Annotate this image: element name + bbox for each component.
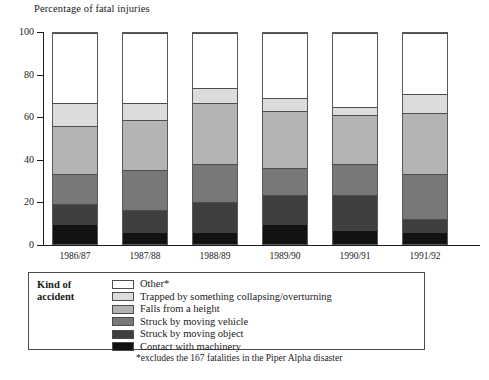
bar-group: 1991/92 [402,0,448,262]
legend-swatch [112,317,134,326]
bar-segment[interactable] [53,204,97,225]
bar-segment[interactable] [123,233,167,244]
y-axis-line [43,32,44,246]
bar-segment[interactable] [333,33,377,107]
bar-segment[interactable] [403,174,447,218]
bar-segment[interactable] [263,225,307,244]
bar-segment[interactable] [123,170,167,210]
legend-item-label: Struck by moving vehicle [140,316,248,328]
y-axis-tick-label: 100 [0,27,34,37]
legend-item-label: Trapped by something collapsing/overturn… [140,291,332,303]
bar-segment[interactable] [263,33,307,98]
bar-segment[interactable] [263,195,307,225]
bar-segment[interactable] [53,225,97,244]
legend-swatch [112,292,134,301]
legend-swatch [112,342,134,351]
y-axis-tick [37,32,44,33]
bar-group: 1986/87 [52,0,98,262]
legend-item-label: Struck by moving object [140,328,244,340]
y-axis-tick-label: 0 [0,240,34,250]
bar-segment[interactable] [193,103,237,164]
bar-segment[interactable] [193,33,237,88]
chart-footnote: *excludes the 167 fatalities in the Pipe… [136,353,342,364]
bar-segment[interactable] [193,88,237,103]
bar-segment[interactable] [193,202,237,234]
bar-segment[interactable] [333,164,377,196]
bar-segment[interactable] [403,233,447,244]
y-axis-tick-label: 80 [0,70,34,80]
y-axis-tick [37,117,44,118]
legend-swatch [112,330,134,339]
legend-swatch [112,305,134,314]
y-axis-tick-label: 40 [0,155,34,165]
bar-segment[interactable] [193,233,237,244]
bar-segment[interactable] [53,103,97,126]
x-axis-tick-label: 1988/89 [183,250,247,262]
bar-segment[interactable] [123,120,167,171]
y-axis-tick [37,245,44,246]
bar-group: 1989/90 [262,0,308,262]
legend-swatch [112,280,134,289]
bar-segment[interactable] [403,94,447,113]
bar-segment[interactable] [123,33,167,103]
bar-segment[interactable] [333,195,377,231]
bar-segment[interactable] [53,33,97,103]
bar-segment[interactable] [333,115,377,164]
x-axis-tick-label: 1986/87 [43,250,107,262]
legend-item[interactable]: Falls from a height [112,303,332,315]
stacked-bar[interactable] [192,32,238,245]
y-axis-tick-label: 60 [0,112,34,122]
bar-group: 1987/88 [122,0,168,262]
bar-segment[interactable] [123,103,167,120]
x-axis-tick-label: 1987/88 [113,250,177,262]
y-axis-tick [37,75,44,76]
x-axis-tick-label: 1991/92 [393,250,457,262]
chart-plot-area: 020406080100 1986/871987/881988/891989/9… [0,0,489,262]
x-axis-tick-label: 1989/90 [253,250,317,262]
x-axis-tick-label: 1990/91 [323,250,387,262]
bar-segment[interactable] [403,113,447,174]
legend-title-line2: accident [37,291,107,303]
y-axis-tick [37,160,44,161]
bar-segment[interactable] [403,33,447,94]
bar-segment[interactable] [403,219,447,234]
y-axis-tick [37,202,44,203]
legend-item[interactable]: Struck by moving object [112,328,332,340]
bar-group: 1988/89 [192,0,238,262]
legend: Kind of accident Other*Trapped by someth… [28,272,425,350]
legend-item[interactable]: Struck by moving vehicle [112,316,332,328]
legend-item[interactable]: Other* [112,278,332,290]
y-axis-tick-label: 20 [0,197,34,207]
legend-item[interactable]: Contact with machinery [112,341,332,353]
legend-item-label: Falls from a height [140,303,220,315]
bar-segment[interactable] [333,231,377,244]
bar-segment[interactable] [263,168,307,195]
stacked-bar[interactable] [332,32,378,245]
bar-segment[interactable] [263,98,307,111]
legend-item[interactable]: Trapped by something collapsing/overturn… [112,291,332,303]
legend-items: Other*Trapped by something collapsing/ov… [112,278,332,354]
stacked-bar[interactable] [262,32,308,245]
stacked-bar[interactable] [402,32,448,245]
stacked-bar[interactable] [122,32,168,245]
bar-segment[interactable] [263,111,307,168]
legend-item-label: Other* [140,278,169,290]
bar-segment[interactable] [193,164,237,202]
legend-item-label: Contact with machinery [140,341,241,353]
bar-segment[interactable] [53,126,97,175]
legend-title-line1: Kind of [37,279,107,291]
bar-segment[interactable] [333,107,377,115]
bar-segment[interactable] [123,210,167,233]
bar-group: 1990/91 [332,0,378,262]
legend-title: Kind of accident [37,279,107,303]
stacked-bar[interactable] [52,32,98,245]
bar-segment[interactable] [53,174,97,204]
